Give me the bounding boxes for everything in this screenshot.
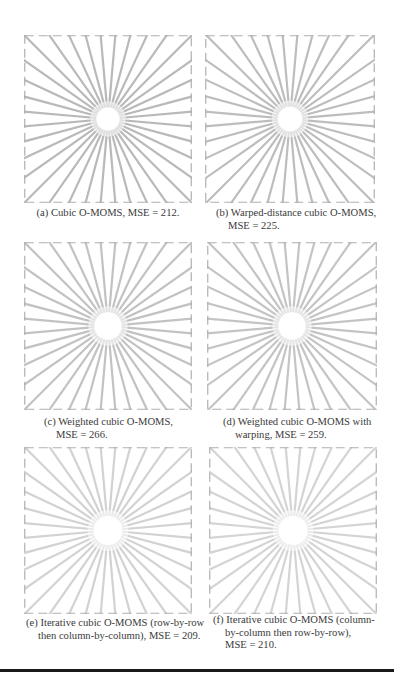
caption-f-line-3: MSE = 210.	[213, 639, 393, 652]
caption-f-line-1: (f) Iterative cubic O-MOMS (column-	[213, 614, 393, 627]
starburst-image-e	[24, 447, 192, 614]
caption-f: (f) Iterative cubic O-MOMS (column- by-c…	[213, 614, 393, 652]
caption-d: (d) Weighted cubic O-MOMS with warping, …	[223, 416, 393, 441]
caption-e-line-1: (e) Iterative cubic O-MOMS (row-by-row	[26, 617, 206, 630]
caption-a: (a) Cubic O-MOMS, MSE = 212.	[24, 207, 192, 220]
caption-a-line-1: (a) Cubic O-MOMS, MSE = 212.	[24, 207, 192, 220]
caption-b: (b) Warped-distance cubic O-MOMS, MSE = …	[216, 207, 386, 232]
caption-c: (c) Weighted cubic O-MOMS, MSE = 266.	[44, 416, 204, 441]
starburst-image-f	[209, 447, 377, 614]
page-bottom-rule	[0, 669, 394, 672]
starburst-image-c	[24, 242, 192, 410]
caption-d-line-1: (d) Weighted cubic O-MOMS with	[223, 416, 393, 429]
caption-e-line-2: then column-by-column), MSE = 209.	[26, 630, 206, 643]
caption-d-line-2: warping, MSE = 259.	[223, 429, 393, 442]
starburst-image-a	[24, 35, 192, 203]
caption-c-line-1: (c) Weighted cubic O-MOMS,	[44, 416, 204, 429]
caption-e: (e) Iterative cubic O-MOMS (row-by-row t…	[26, 617, 206, 642]
caption-b-line-2: MSE = 225.	[216, 220, 386, 233]
starburst-image-d	[207, 242, 377, 410]
caption-b-line-1: (b) Warped-distance cubic O-MOMS,	[216, 207, 386, 220]
starburst-image-b	[205, 35, 375, 203]
caption-f-line-2: by-column then row-by-row),	[213, 627, 393, 640]
caption-c-line-2: MSE = 266.	[44, 429, 204, 442]
